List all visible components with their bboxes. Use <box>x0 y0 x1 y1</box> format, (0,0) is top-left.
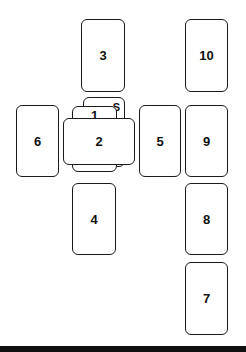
card-3-label: 3 <box>99 48 106 63</box>
card-9: 9 <box>185 105 228 177</box>
card-7-label: 7 <box>203 291 210 306</box>
bottom-rule <box>0 346 246 352</box>
card-6-label: 6 <box>34 134 41 149</box>
card-10: 10 <box>185 19 228 92</box>
card-5-label: 5 <box>156 134 163 149</box>
card-9-label: 9 <box>203 134 210 149</box>
card-4-label: 4 <box>90 212 97 227</box>
card-8-label: 8 <box>203 212 210 227</box>
card-5: 5 <box>139 105 181 177</box>
card-7: 7 <box>185 262 228 335</box>
card-3: 3 <box>81 19 125 92</box>
card-4: 4 <box>72 183 116 255</box>
card-6: 6 <box>16 105 59 177</box>
card-8: 8 <box>185 183 228 255</box>
card-10-label: 10 <box>199 48 213 63</box>
card-2: 2 <box>63 118 135 165</box>
card-2-label: 2 <box>95 134 102 149</box>
